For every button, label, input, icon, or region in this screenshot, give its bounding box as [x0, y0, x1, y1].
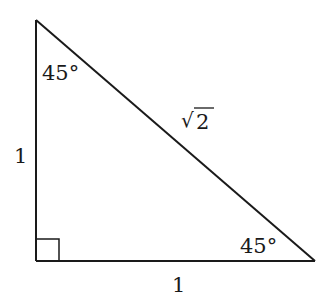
side-label-bottom: 1 [172, 273, 185, 297]
radicand: 2 [196, 110, 209, 134]
side-label-left: 1 [14, 144, 27, 168]
triangle-diagram: 45° 45° 1 1 √ 2 [0, 0, 333, 306]
angle-label-top: 45° [42, 61, 79, 85]
side-label-hypotenuse: √ 2 [181, 108, 214, 134]
radical-sign: √ [181, 108, 194, 132]
angle-label-right: 45° [240, 234, 277, 258]
right-angle-marker [36, 239, 59, 261]
hypotenuse-line [36, 20, 315, 261]
